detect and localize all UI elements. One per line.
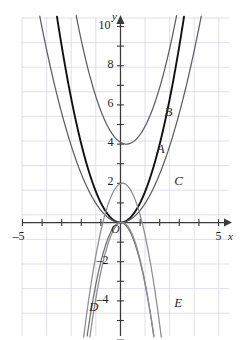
curve-label-E: E — [174, 295, 182, 311]
x-tick--5: –5 — [13, 229, 25, 244]
y-tick-6: 6 — [108, 96, 114, 111]
parabola-plot — [0, 0, 243, 340]
curve-label-C: C — [174, 173, 183, 189]
graph-figure: 246810–2–4–55 ABCDE x y O — [0, 0, 243, 340]
y-tick--2: –2 — [97, 253, 109, 268]
curve-label-D: D — [89, 299, 98, 315]
curve-label-B: B — [165, 104, 173, 120]
curve-label-A: A — [157, 141, 165, 157]
origin-label: O — [111, 222, 120, 237]
y-tick-4: 4 — [108, 135, 114, 150]
y-tick-10: 10 — [99, 18, 111, 33]
y-tick-8: 8 — [108, 57, 114, 72]
x-axis-label: x — [228, 230, 233, 242]
y-tick-2: 2 — [108, 174, 114, 189]
x-tick-5: 5 — [216, 229, 222, 244]
y-axis-label: y — [112, 10, 117, 22]
